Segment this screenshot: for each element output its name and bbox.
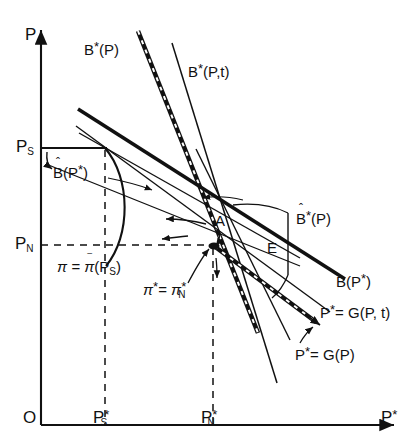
pi-overbar-icon: ‾ (88, 252, 91, 265)
anno-pi-sub: S (109, 266, 116, 277)
b-hat-star-accent-icon: ˆ (299, 203, 303, 215)
label-BhatPstar-arg: (P (63, 164, 78, 181)
label-GPt-rest: = G(P, t) (335, 304, 390, 321)
label-GP-rest: = G(P) (310, 346, 355, 363)
anno-pistar-eq: = (158, 281, 167, 298)
tick-label-PS-star: P*S (93, 408, 107, 428)
arc-pi-bar-brace (105, 148, 125, 266)
tick-PNstar-sub: N (207, 417, 214, 428)
label-BhatPstar-base-wrap: ˆB (53, 165, 63, 180)
curve-label-B-hat-star-P: ˆB*(P) (296, 209, 331, 226)
figure-canvas: P P* O PS PN P*S P*N B*(P) B*(P,t) ˆB(P*… (0, 0, 417, 438)
curve-label-B-star-P-t: B*(P,t) (188, 62, 229, 79)
label-BstarPt-arg: (P,t) (203, 63, 229, 80)
convergence-node (209, 243, 220, 250)
leader-b-hat-right (108, 178, 152, 190)
leader-pn-left (162, 236, 188, 239)
curve-G-of-P-arrowhead (305, 314, 320, 325)
brace-arcs (105, 148, 288, 298)
anno-pistar-base: π (143, 281, 153, 298)
label-Bstar-P-base: B (84, 41, 94, 58)
point-label-E: E (267, 240, 277, 255)
label-GPt-base: P (320, 304, 330, 321)
annotation-pi-star: π*= π*N (143, 280, 185, 300)
curve-P-star-eq-G-P-t (76, 126, 330, 312)
tick-label-PS: PS (16, 138, 34, 157)
curve-label-B-of-P-star: B(P*) (336, 272, 371, 289)
label-BPstar-base: B(P (336, 273, 361, 290)
b-hat-accent-icon: ˆ (56, 157, 60, 169)
x-axis-label-base: P (381, 408, 392, 427)
label-GP-base: P (295, 346, 305, 363)
label-Bstar-P-arg: (P) (99, 41, 119, 58)
label-BhatPstar-close: ) (83, 164, 88, 181)
anno-pistar-sub: N (178, 289, 185, 300)
label-BstarPt-base: B (188, 63, 198, 80)
point-label-A: A (215, 213, 225, 228)
label-BPstar-close: ) (366, 273, 371, 290)
anno-pi-bar-wrap: ‾π (84, 259, 94, 274)
tick-PSstar-sub: S (100, 417, 107, 428)
steep-curves (138, 31, 290, 383)
anno-pi-close: ) (116, 258, 121, 275)
leader-into-fan-left (166, 219, 206, 224)
tick-label-PN: PN (15, 235, 34, 254)
label-BhatstarP-arg: (P) (311, 210, 331, 227)
tick-PN-base: P (15, 234, 26, 253)
y-axis-label: P (25, 26, 36, 43)
anno-pi-eq: π = (57, 258, 80, 275)
curve-label-B-hat-P-star: ˆB(P*) (53, 163, 88, 180)
tick-PN-sub: N (26, 243, 33, 254)
origin-label: O (23, 409, 36, 426)
leader-node-down (216, 258, 217, 278)
anno-pi-arg-open: (P (94, 258, 109, 275)
curve-label-B-star-P: B*(P) (84, 40, 119, 57)
annotation-pi-bar: π = ‾π(PS) (57, 259, 121, 277)
leader-pistar-up (188, 249, 209, 283)
leader-g-of-p (300, 327, 313, 343)
x-axis-label: P* (381, 408, 397, 426)
guide-lines (41, 148, 214, 425)
x-axis-label-star: * (392, 407, 397, 422)
tick-label-PN-star: P*N (201, 408, 215, 428)
curve-B-of-P-star (78, 109, 345, 279)
tick-PS-sub: S (27, 146, 34, 157)
tick-PS-base: P (16, 137, 27, 156)
curve-label-G-of-P-t: P*= G(P, t) (320, 303, 390, 320)
label-BhatstarP-base-wrap: ˆB (296, 211, 306, 226)
curve-label-G-of-P: P*= G(P) (295, 345, 355, 362)
